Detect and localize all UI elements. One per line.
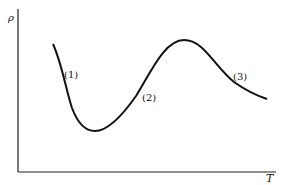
y-axis-label: ρ (8, 13, 14, 23)
resistivity-curve (53, 40, 267, 131)
region-3-label: (3) (233, 72, 247, 82)
x-axis-label: T (266, 173, 273, 184)
region-1-label: (1) (64, 70, 78, 80)
region-2-label: (2) (142, 93, 156, 103)
